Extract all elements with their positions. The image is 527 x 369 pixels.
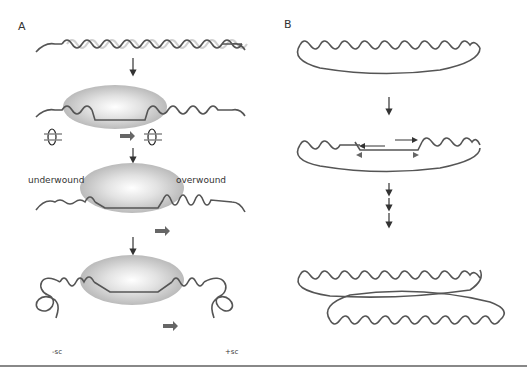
panel-b-relaxed-circle [298, 41, 481, 74]
left-arrow-icon [356, 152, 362, 158]
negative-supercoil-icon [36, 278, 60, 318]
bottom-rule [0, 365, 527, 367]
right-arrow-icon [413, 152, 419, 158]
panel-a-supercoiled [36, 255, 232, 331]
panel-a-translocating [36, 163, 245, 236]
panel-a-enzyme-bound [36, 85, 245, 145]
panel-b-catenanes [298, 270, 504, 324]
label-positive-supercoil: +sc [225, 348, 238, 356]
direction-arrow-icon [120, 131, 135, 141]
rotation-icon [144, 129, 162, 145]
rotation-icon [44, 129, 62, 145]
label-underwound: underwound [28, 175, 84, 185]
direction-arrow-icon [155, 226, 170, 236]
label-overwound: overwound [176, 175, 226, 185]
panel-a-relaxed-dna [36, 40, 247, 52]
direction-arrow-icon [163, 321, 178, 331]
positive-supercoil-icon [204, 278, 232, 318]
panel-label-a: A [18, 20, 26, 33]
label-negative-supercoil: -sc [52, 348, 62, 356]
panel-label-b: B [284, 18, 292, 31]
panel-b-replication-bubble [298, 138, 481, 172]
